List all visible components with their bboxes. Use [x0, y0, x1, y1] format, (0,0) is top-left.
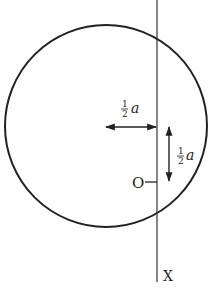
circle: [5, 25, 207, 227]
h-frac-denominator: 2: [122, 109, 128, 119]
v-variable-a: a: [186, 147, 194, 163]
h-frac-numerator: 1: [122, 99, 128, 109]
v-frac-denominator: 2: [178, 156, 184, 166]
h-variable-a: a: [131, 100, 139, 116]
horizontal-dimension-label: 1 2 a: [121, 99, 139, 119]
axis-label-x: X: [163, 268, 173, 284]
diagram-canvas: X O 1 2 a 1 2 a: [0, 0, 223, 300]
vertical-dimension-label: 1 2 a: [177, 146, 194, 166]
point-label-o: O: [132, 174, 144, 192]
v-frac-numerator: 1: [178, 146, 184, 156]
